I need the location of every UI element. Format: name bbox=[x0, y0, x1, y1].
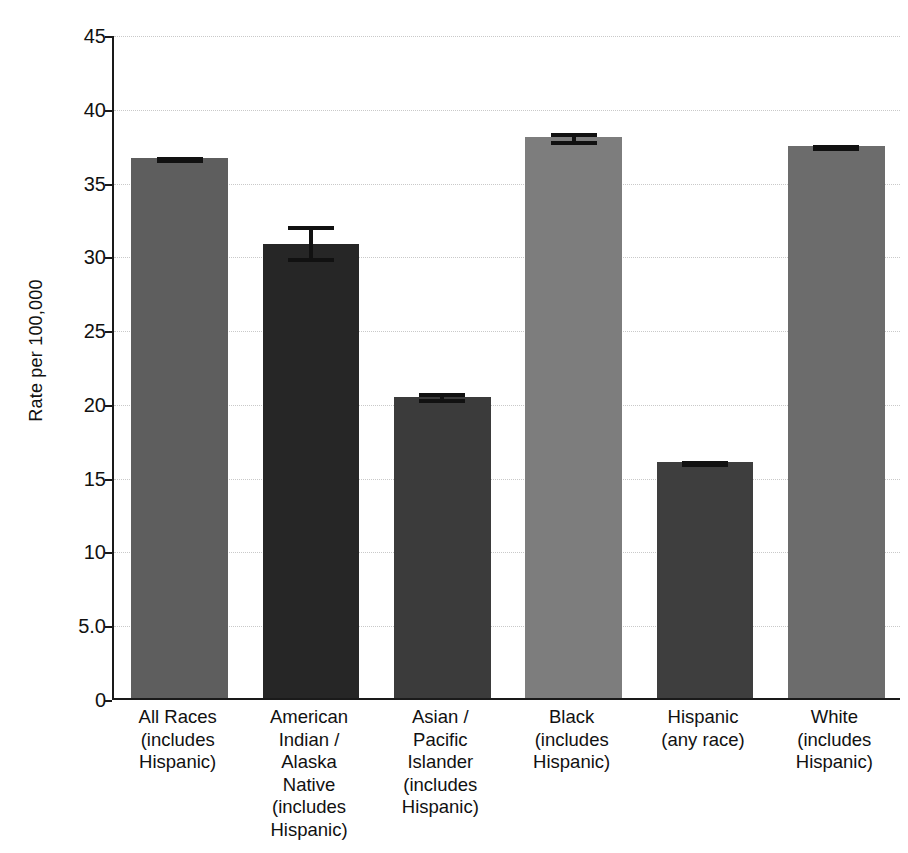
error-bar-lower-cap bbox=[419, 399, 465, 403]
error-bar bbox=[419, 393, 465, 403]
x-axis-category-labels: All Races (includes Hispanic)American In… bbox=[112, 706, 900, 853]
error-bar-lower-cap bbox=[288, 258, 334, 262]
error-bar-upper-cap bbox=[419, 393, 465, 397]
bar-slot bbox=[508, 36, 639, 698]
error-bar-lower-cap bbox=[813, 147, 859, 151]
x-axis-category-label: All Races (includes Hispanic) bbox=[112, 706, 243, 774]
bar[interactable] bbox=[131, 158, 228, 698]
y-axis-tick-mark bbox=[105, 331, 112, 333]
y-axis-tick-mark bbox=[105, 257, 112, 259]
error-bar bbox=[682, 461, 728, 467]
bar[interactable] bbox=[263, 244, 360, 698]
bar-slot bbox=[245, 36, 376, 698]
bar[interactable] bbox=[394, 397, 491, 698]
y-axis-tick-label: 15 bbox=[48, 469, 106, 489]
error-bar-upper-cap bbox=[551, 133, 597, 137]
x-axis-category-label: Hispanic (any race) bbox=[637, 706, 768, 751]
y-axis-tick-label: 10 bbox=[48, 542, 106, 562]
y-axis-tick-label: 25 bbox=[48, 321, 106, 341]
error-bar bbox=[157, 157, 203, 163]
y-axis-tick-mark bbox=[105, 184, 112, 186]
x-axis-category-label: Black (includes Hispanic) bbox=[506, 706, 637, 774]
plot-area bbox=[112, 36, 900, 700]
y-axis-tick-label: 5.0 bbox=[48, 616, 106, 636]
error-bar bbox=[813, 145, 859, 151]
y-axis-tick-mark bbox=[105, 626, 112, 628]
y-axis-tick-label: 20 bbox=[48, 395, 106, 415]
y-axis-tick-mark bbox=[105, 479, 112, 481]
bar-slot bbox=[114, 36, 245, 698]
bar-slot bbox=[771, 36, 902, 698]
y-axis-tick-label: 45 bbox=[48, 26, 106, 46]
error-bar-stem bbox=[309, 226, 313, 261]
y-axis-tick-mark bbox=[105, 700, 112, 702]
bar-chart: Rate per 100,000 05.01015202530354045 Al… bbox=[0, 0, 908, 853]
y-axis-tick-label: 40 bbox=[48, 100, 106, 120]
x-axis-category-label: Asian / Pacific Islander (includes Hispa… bbox=[375, 706, 506, 819]
x-axis-category-label: American Indian / Alaska Native (include… bbox=[243, 706, 374, 841]
bar-slot bbox=[639, 36, 770, 698]
y-axis-tick-mark bbox=[105, 552, 112, 554]
bar-slot bbox=[377, 36, 508, 698]
error-bar-lower-cap bbox=[682, 463, 728, 467]
error-bar-lower-cap bbox=[551, 141, 597, 145]
error-bar bbox=[288, 226, 334, 261]
y-axis-tick-label: 35 bbox=[48, 174, 106, 194]
bar[interactable] bbox=[657, 462, 754, 698]
y-axis-tick-mark bbox=[105, 110, 112, 112]
bar[interactable] bbox=[525, 137, 622, 698]
y-axis-tick-mark bbox=[105, 405, 112, 407]
y-axis-tick-mark bbox=[105, 36, 112, 38]
error-bar bbox=[551, 133, 597, 145]
error-bar-upper-cap bbox=[288, 226, 334, 230]
error-bar-lower-cap bbox=[157, 159, 203, 163]
bar[interactable] bbox=[788, 146, 885, 698]
x-axis-category-label: White (includes Hispanic) bbox=[769, 706, 900, 774]
y-axis-tick-labels: 05.01015202530354045 bbox=[36, 36, 106, 700]
y-axis-tick-label: 30 bbox=[48, 247, 106, 267]
y-axis-tick-label: 0 bbox=[48, 690, 106, 710]
